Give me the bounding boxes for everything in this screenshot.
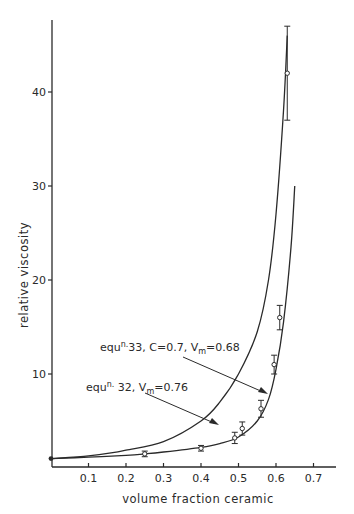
x-tick-label: 0.1	[80, 472, 98, 485]
arrowhead-icon	[209, 418, 219, 425]
marker-open	[285, 71, 289, 75]
x-axis-label: volume fraction ceramic	[122, 492, 273, 506]
data-point	[49, 456, 54, 461]
annotation-equ32: equn. 32, Vm=0.76	[86, 380, 219, 425]
y-tick-label: 40	[32, 86, 46, 99]
chart: 10203040 0.10.20.30.40.50.60.7 relative …	[0, 0, 354, 514]
svg-text:equn. 32, Vm=0.76: equn. 32, Vm=0.76	[86, 380, 188, 396]
x-tick-label: 0.2	[117, 472, 135, 485]
marker-open	[278, 315, 282, 319]
axes	[52, 20, 336, 467]
model-curves	[51, 36, 295, 459]
x-tick-label: 0.3	[155, 472, 173, 485]
marker-open	[259, 407, 263, 411]
svg-text:equn.33, C=0.7, Vm=0.68: equn.33, C=0.7, Vm=0.68	[100, 340, 240, 356]
y-tick-label: 30	[32, 180, 46, 193]
x-ticks: 0.10.20.30.40.50.60.7	[80, 463, 323, 485]
marker-open	[272, 362, 276, 366]
annotation-arrow-equ33	[183, 357, 263, 392]
data-point	[258, 400, 264, 417]
data-point	[232, 432, 238, 443]
y-tick-label: 20	[32, 274, 46, 287]
arrowhead-icon	[258, 387, 268, 394]
marker-open	[143, 452, 147, 456]
data-point	[142, 451, 148, 457]
data-point	[284, 26, 290, 120]
marker-open	[240, 426, 244, 430]
annotation-arrow-equ32	[145, 393, 214, 423]
data-points	[49, 26, 291, 461]
x-tick-label: 0.4	[192, 472, 210, 485]
marker-filled	[49, 456, 54, 461]
y-ticks: 10203040	[32, 86, 52, 381]
curve-equ32	[51, 36, 287, 459]
x-tick-label: 0.6	[267, 472, 285, 485]
x-tick-label: 0.5	[230, 472, 248, 485]
marker-open	[233, 436, 237, 440]
marker-open	[199, 446, 203, 450]
x-tick-label: 0.7	[305, 472, 323, 485]
data-point	[277, 305, 283, 329]
data-point	[198, 445, 204, 451]
y-axis-label: relative viscosity	[17, 222, 31, 328]
y-tick-label: 10	[32, 368, 46, 381]
